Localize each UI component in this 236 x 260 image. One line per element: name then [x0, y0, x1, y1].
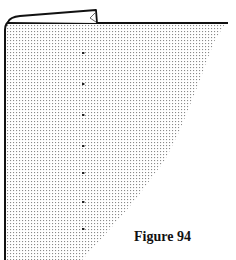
- marking-dot: [82, 172, 84, 174]
- fabric-diagram: [0, 0, 236, 260]
- fabric-panel: [7, 24, 225, 260]
- folded-flap: [8, 10, 97, 23]
- marking-dot: [82, 114, 84, 116]
- marking-dot: [82, 145, 84, 147]
- marking-dot: [82, 52, 84, 54]
- marking-dot: [82, 201, 84, 203]
- marking-dot: [82, 83, 84, 85]
- figure-caption: Figure 94: [134, 229, 191, 245]
- marking-dot: [82, 228, 84, 230]
